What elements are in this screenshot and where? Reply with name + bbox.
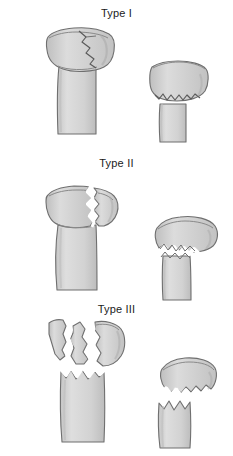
- panel-type-1: Type I: [0, 0, 233, 152]
- bone-fragment-type-3-left: [49, 320, 66, 360]
- bone-type-3-lateral: [158, 358, 216, 448]
- bone-type-2-lateral: [155, 216, 217, 300]
- bone-type-3-frontal: [49, 320, 125, 442]
- bone-fragment-type-3-middle: [70, 322, 88, 364]
- bone-type-1-frontal: [46, 28, 114, 134]
- figure-type-3: [0, 296, 233, 456]
- bone-shaft-type-3-frontal: [60, 370, 104, 442]
- figure-type-2: [0, 148, 233, 308]
- bone-type-2-frontal: [46, 186, 118, 290]
- figure-type-1: [0, 0, 233, 160]
- fracture-gap-type-3-a: [67, 321, 71, 368]
- panel-type-2: Type II: [0, 148, 233, 300]
- bone-type-1-lateral: [150, 61, 208, 142]
- bone-fragment-type-2-frontal: [94, 188, 118, 226]
- fracture-gap-type-3-b: [88, 320, 93, 367]
- panel-type-3: Type III: [0, 296, 233, 456]
